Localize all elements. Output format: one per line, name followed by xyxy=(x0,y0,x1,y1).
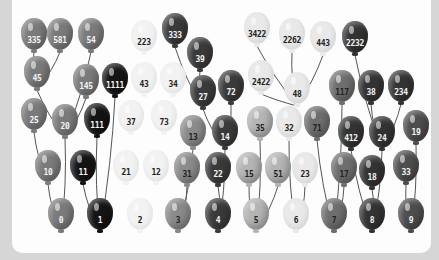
balloon-label: 145 xyxy=(73,82,99,91)
balloon-label: 12 xyxy=(143,168,169,177)
balloon-label: 37 xyxy=(118,118,144,127)
balloon-label: 6 xyxy=(283,216,309,225)
balloon-label: 4 xyxy=(205,216,231,225)
balloon-label: 22 xyxy=(205,170,231,179)
balloon-label: 33 xyxy=(393,168,419,177)
balloon-label: 24 xyxy=(369,134,395,143)
balloon-label: 443 xyxy=(310,39,336,48)
balloon-label: 7 xyxy=(321,216,347,225)
balloon-label: 2422 xyxy=(248,78,274,87)
balloon-label: 14 xyxy=(212,133,238,142)
balloon-label: 412 xyxy=(338,134,364,143)
balloon-label: 48 xyxy=(284,90,310,99)
balloon-label: 73 xyxy=(151,118,177,127)
balloon-label: 2 xyxy=(127,216,153,225)
balloon-label: 13 xyxy=(180,133,206,142)
balloon-label: 1 xyxy=(87,216,113,225)
balloon-label: 117 xyxy=(329,88,355,97)
balloon-label: 31 xyxy=(174,170,200,179)
balloon-label: 54 xyxy=(78,36,104,45)
balloon-label: 10 xyxy=(35,168,61,177)
balloon-label: 34 xyxy=(160,80,186,89)
balloon-label: 3 xyxy=(165,216,191,225)
balloon-label: 72 xyxy=(218,88,244,97)
balloon-label: 45 xyxy=(24,74,50,83)
balloon-label: 2262 xyxy=(279,36,305,45)
balloon-label: 5 xyxy=(243,216,269,225)
balloon-label: 19 xyxy=(403,128,429,137)
balloon-label: 3422 xyxy=(244,30,270,39)
balloon-label: 20 xyxy=(52,122,78,131)
balloon-label: 8 xyxy=(359,216,385,225)
balloon-label: 11 xyxy=(70,168,96,177)
balloon-label: 27 xyxy=(190,93,216,102)
balloon-label: 2232 xyxy=(342,39,368,48)
balloon-label: 1111 xyxy=(102,81,128,90)
balloon-label: 234 xyxy=(388,88,414,97)
balloon-label: 21 xyxy=(113,168,139,177)
balloon-label: 32 xyxy=(276,124,302,133)
balloon-label: 17 xyxy=(331,170,357,179)
balloon-label: 333 xyxy=(162,31,188,40)
balloon-label: 0 xyxy=(48,216,74,225)
balloon-label: 51 xyxy=(265,170,291,179)
balloon-label: 71 xyxy=(304,124,330,133)
balloon-label: 581 xyxy=(47,36,73,45)
balloon-label: 23 xyxy=(292,170,318,179)
balloon-label: 18 xyxy=(359,173,385,182)
balloon-label: 223 xyxy=(131,38,157,47)
balloon-label: 39 xyxy=(187,55,213,64)
balloon-label: 335 xyxy=(21,36,47,45)
balloon-label: 25 xyxy=(21,116,47,125)
balloon-label: 111 xyxy=(84,121,110,130)
balloon-label: 35 xyxy=(247,124,273,133)
balloon-label: 9 xyxy=(398,216,424,225)
balloon-label: 43 xyxy=(131,80,157,89)
balloon-label: 38 xyxy=(358,88,384,97)
balloon-label: 15 xyxy=(236,170,262,179)
